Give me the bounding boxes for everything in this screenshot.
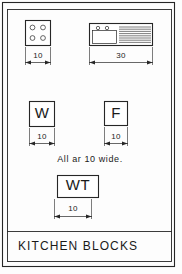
faucet-icon	[105, 26, 108, 29]
burner-icon	[41, 36, 46, 41]
kitchen-blocks-drawing-sheet: 10	[0, 0, 182, 274]
cooktop-dimension: 10	[26, 48, 51, 65]
cooktop-block-group: 10	[26, 21, 51, 65]
burner-icon	[30, 36, 35, 41]
width-note: All ar 10 wide.	[57, 154, 123, 164]
fridge-label: F	[111, 104, 121, 121]
cooktop-outline	[26, 21, 51, 46]
burner-icon	[41, 25, 46, 30]
worktop-dimension: 10	[55, 200, 92, 219]
worktop-block-group: WT 10	[55, 176, 99, 219]
cooktop-dimension-label: 10	[33, 51, 43, 60]
sink-dimension: 30	[90, 48, 153, 65]
washer-dimension: 10	[30, 129, 55, 146]
washer-dimension-label: 10	[37, 132, 47, 141]
washer-label: W	[35, 104, 50, 121]
fridge-block-group: F 10	[105, 102, 128, 146]
faucet-icon	[96, 26, 99, 29]
sink-dimension-label: 30	[116, 51, 126, 60]
fridge-dimension-label: 10	[111, 132, 121, 141]
sink-block-group: 30	[90, 24, 153, 65]
worktop-label: WT	[66, 176, 90, 193]
fridge-dimension: 10	[105, 128, 128, 146]
worktop-dimension-label: 10	[68, 204, 78, 213]
burner-icon	[30, 25, 35, 30]
washer-block-group: W 10	[30, 102, 55, 146]
sheet-title: KITCHEN BLOCKS	[18, 239, 138, 253]
